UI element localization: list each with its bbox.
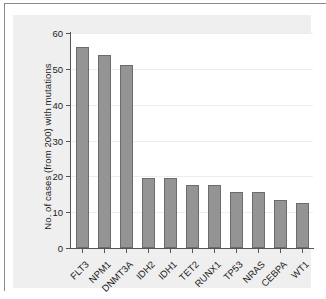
x-tick-mark [126,249,127,253]
y-tick-label: 10 [43,207,63,218]
x-tick-mark [148,249,149,253]
gridline [71,33,313,34]
y-tick-label: 60 [43,28,63,39]
chart-panel: No. of cases (from 200) with mutations 0… [13,15,311,288]
bar [208,185,221,248]
bar [76,47,89,248]
bar [296,203,309,248]
y-tick-mark [66,105,70,106]
y-tick-label: 20 [43,171,63,182]
y-tick-label: 50 [43,63,63,74]
bar [98,55,111,249]
y-tick-mark [66,248,70,249]
y-axis-ticks: 0102030405060 [43,15,70,299]
y-tick-mark [66,33,70,34]
x-tick-mark [170,249,171,253]
plot-area [71,33,313,248]
bar [120,65,133,248]
x-tick-mark [82,249,83,253]
bar [164,178,177,248]
y-tick-label: 0 [43,243,63,254]
x-tick-mark [280,249,281,253]
bar [252,192,265,248]
bar [274,200,287,248]
bar [142,178,155,248]
frame-top-rule [4,3,326,4]
x-tick-mark [302,249,303,253]
y-tick-mark [66,176,70,177]
x-tick-mark [258,249,259,253]
bar [186,185,199,248]
x-tick-mark [192,249,193,253]
x-tick-mark [104,249,105,253]
x-tick-mark [236,249,237,253]
y-tick-mark [66,69,70,70]
x-tick-mark [214,249,215,253]
frame-left-rule [4,3,5,291]
y-tick-mark [66,141,70,142]
y-tick-label: 40 [43,99,63,110]
y-tick-label: 30 [43,135,63,146]
y-axis-line [70,32,71,249]
figure-frame: No. of cases (from 200) with mutations 0… [0,0,326,299]
bar [230,192,243,248]
y-tick-mark [66,212,70,213]
